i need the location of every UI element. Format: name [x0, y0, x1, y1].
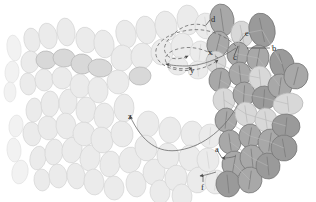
cell [19, 72, 37, 96]
cell [4, 82, 16, 102]
cell [109, 120, 134, 149]
cell-body [103, 175, 125, 200]
cell [6, 138, 22, 163]
figure-canvas: abcdefxyz [0, 0, 316, 202]
cell [4, 61, 20, 84]
cell [36, 21, 59, 50]
cell [41, 91, 60, 118]
label-c: c [233, 53, 237, 62]
cell-body [159, 117, 182, 144]
cell-body [19, 72, 37, 96]
cell [93, 102, 115, 129]
cell-body [134, 14, 159, 45]
cell-body [113, 18, 138, 50]
cell [128, 66, 151, 85]
cell [136, 110, 160, 137]
cell-body [129, 42, 154, 71]
cell-body [41, 91, 60, 118]
cell [55, 17, 77, 47]
cell-body [33, 168, 50, 191]
cell [113, 18, 138, 50]
cell-body [10, 159, 30, 185]
cell-body [34, 68, 53, 91]
cell-body [48, 163, 68, 189]
label-b: b [272, 44, 276, 53]
label-a: a [215, 145, 219, 154]
label-f: f [201, 183, 204, 192]
cell [103, 175, 125, 200]
cell-layer [4, 2, 311, 202]
cell-body [4, 61, 20, 84]
cell [33, 168, 50, 191]
label-e: e [245, 29, 249, 38]
cell-body [128, 66, 151, 85]
cell [129, 42, 154, 71]
cell [134, 14, 159, 45]
cell [10, 159, 30, 185]
cell-body [4, 82, 16, 102]
cell-body [5, 34, 22, 62]
cell-body [43, 138, 64, 166]
cell [34, 68, 53, 91]
cell [8, 114, 24, 137]
cell-body [136, 110, 160, 137]
cell [25, 97, 43, 122]
label-y: y [190, 66, 194, 75]
cell [159, 117, 182, 144]
label-z: z [128, 112, 132, 121]
cell-body [93, 102, 115, 129]
cell-body [8, 114, 24, 137]
label-d: d [211, 15, 215, 24]
cell-body [109, 120, 134, 149]
cell [48, 163, 68, 189]
cell-body [25, 97, 43, 122]
cell-body [36, 21, 59, 50]
figure-svg [0, 0, 316, 202]
label-x: x [208, 48, 212, 57]
cell [5, 34, 22, 62]
cell-body [6, 138, 22, 163]
cell [43, 138, 64, 166]
cell-body [55, 17, 77, 47]
